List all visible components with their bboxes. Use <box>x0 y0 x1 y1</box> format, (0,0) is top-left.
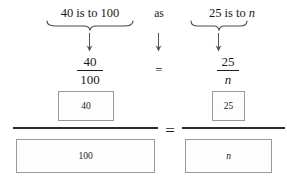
left-denominator-box-value: 100 <box>78 151 92 161</box>
right-fraction-denominator: n <box>204 71 252 87</box>
right-denominator-box-value: n <box>226 151 231 161</box>
right-fraction-numerator: 25 <box>204 54 252 70</box>
right-statement: 25 is to n <box>184 6 280 20</box>
left-numerator-box-value: 40 <box>81 101 91 111</box>
connector-as: as <box>138 6 180 20</box>
left-statement: 40 is to 100 <box>36 6 144 20</box>
right-statement-unknown: n <box>249 6 255 20</box>
fraction-equals-sign: = <box>138 62 180 77</box>
left-fraction: 40 100 <box>66 54 114 87</box>
left-brace <box>46 20 134 31</box>
connector-as-text: as <box>154 7 164 19</box>
left-statement-text: 40 is to 100 <box>61 6 120 20</box>
left-fraction-numerator: 40 <box>66 54 114 70</box>
right-denominator-box: n <box>185 139 272 173</box>
right-numerator-box: 25 <box>212 91 245 121</box>
bar-model-equals-sign: = <box>159 122 181 139</box>
left-numerator-box: 40 <box>58 91 114 121</box>
left-fraction-denominator: 100 <box>66 71 114 87</box>
right-brace <box>190 20 248 31</box>
middle-down-arrow <box>153 33 164 52</box>
right-bar-model-rule <box>182 127 285 129</box>
left-denominator-box: 100 <box>16 139 155 173</box>
right-numerator-box-value: 25 <box>224 101 234 111</box>
right-fraction: 25 n <box>204 54 252 87</box>
proportion-diagram: 40 is to 100 as 25 is to n <box>0 0 287 181</box>
left-down-arrow <box>84 33 95 52</box>
left-bar-model-rule <box>13 127 158 129</box>
right-statement-text: 25 is to <box>209 6 249 20</box>
right-down-arrow <box>213 33 224 52</box>
